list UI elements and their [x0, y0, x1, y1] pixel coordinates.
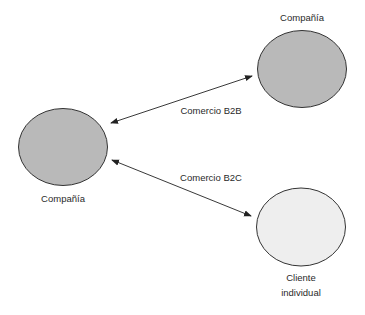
- individual-client-node: [257, 188, 346, 266]
- b2c-arrow: [112, 160, 251, 216]
- company-left-label: Compañía: [33, 191, 93, 206]
- b2b-label: Comercio B2B: [170, 103, 252, 118]
- company-top-node: [258, 31, 347, 108]
- individual-client-label-line2: individual: [271, 285, 331, 300]
- company-top-label: Compañía: [272, 10, 332, 25]
- b2c-label: Comercio B2C: [170, 170, 252, 185]
- diagram-canvas: [0, 0, 365, 315]
- company-left-node: [19, 109, 108, 186]
- individual-client-label-line1: Cliente: [271, 270, 331, 285]
